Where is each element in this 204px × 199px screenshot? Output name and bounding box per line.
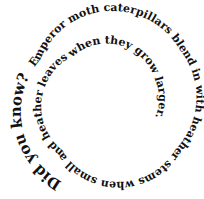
spiral-text-graphic: Did you know? Emperor moth caterpillars … <box>0 0 204 199</box>
spiral-text: Did you know? Emperor moth caterpillars … <box>7 1 204 194</box>
spiral-svg: Did you know? Emperor moth caterpillars … <box>0 0 204 199</box>
body-text: Emperor moth caterpillars blend in with … <box>26 1 204 192</box>
